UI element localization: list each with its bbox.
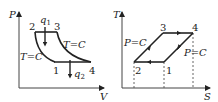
ts-point-3: 3 — [160, 22, 166, 33]
ts-diagram: T S 2 1 3 4 P=C P=C — [113, 9, 211, 102]
ts-x-label: S — [204, 91, 211, 102]
ts-isobar-right-label: P=C — [183, 47, 207, 58]
pv-point-4: 4 — [89, 65, 95, 76]
q2-label: q2 — [74, 68, 85, 81]
ts-point-1: 1 — [166, 65, 172, 76]
ts-arrow-1-2-icon — [147, 60, 151, 64]
thermo-cycle-figure: P V 2 3 1 4 q1 q2 T=C T=C T S 2 1 3 4 — [0, 0, 218, 102]
ts-isobar-left-label: P=C — [123, 37, 147, 48]
pv-x-label: V — [100, 91, 109, 102]
pv-isotherm-left-label: T=C — [20, 51, 43, 62]
pv-point-1: 1 — [53, 65, 59, 76]
pv-isotherm-right-label: T=C — [63, 39, 86, 50]
ts-point-2: 2 — [135, 65, 141, 76]
ts-y-label: T — [113, 9, 121, 20]
pv-point-3: 3 — [54, 21, 60, 32]
pv-y-label: P — [8, 9, 16, 20]
ts-arrow-3-4-icon — [177, 31, 181, 35]
pv-point-2: 2 — [29, 21, 35, 32]
ts-point-4: 4 — [192, 22, 198, 33]
q1-label: q1 — [40, 14, 51, 27]
pv-diagram: P V 2 3 1 4 q1 q2 T=C T=C — [8, 9, 109, 102]
